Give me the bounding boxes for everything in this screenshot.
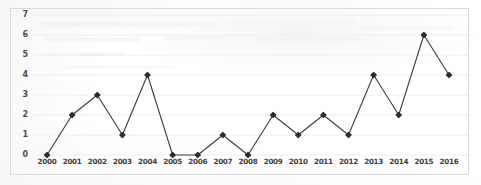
y-axis-tick-label: 4 — [14, 71, 28, 79]
y-axis-tick-label: 3 — [14, 91, 28, 99]
data-point-marker[interactable] — [145, 72, 150, 77]
data-point-marker[interactable] — [396, 112, 401, 117]
y-axis-tick-label: 1 — [14, 131, 28, 139]
y-axis-tick-label: 6 — [14, 31, 28, 39]
y-axis-tick-label: 5 — [14, 51, 28, 59]
y-axis-tick-label: 2 — [14, 111, 28, 119]
y-axis-tick-label: 0 — [14, 151, 28, 159]
data-point-marker[interactable] — [446, 72, 451, 77]
x-axis-tick-label: 2016 — [434, 158, 464, 166]
data-point-marker[interactable] — [120, 132, 125, 137]
gridline-group — [33, 15, 468, 155]
data-point-marker[interactable] — [421, 32, 426, 37]
data-point-marker[interactable] — [371, 72, 376, 77]
y-axis-tick-label: 7 — [14, 11, 28, 19]
